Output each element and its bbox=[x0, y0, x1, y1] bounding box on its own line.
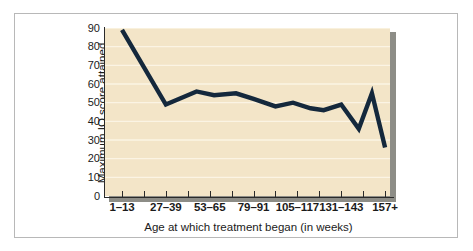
plot-region bbox=[105, 28, 392, 198]
x-axis-tick-label: 131–143 bbox=[319, 201, 363, 213]
x-axis-tick-label: 1–13 bbox=[109, 201, 134, 213]
x-axis-tick-label: 157+ bbox=[372, 201, 398, 213]
x-axis-tick bbox=[144, 191, 145, 197]
data-series-line bbox=[122, 30, 385, 148]
plot-svg bbox=[105, 28, 390, 196]
x-axis-tick bbox=[297, 191, 298, 197]
x-axis-tick-label: 79–91 bbox=[238, 201, 269, 213]
x-axis-tick bbox=[254, 191, 255, 197]
y-axis-tick-label: 90 bbox=[76, 23, 100, 34]
x-axis-tick-label: 105–117 bbox=[276, 201, 319, 213]
chart-figure: 0102030405060708090 Maximum IQ score att… bbox=[0, 0, 473, 251]
x-axis-tick-label: 27–39 bbox=[150, 201, 181, 213]
x-axis-tick bbox=[188, 191, 189, 197]
x-axis-tick bbox=[319, 191, 320, 197]
x-axis-tick bbox=[341, 191, 342, 197]
x-axis-tick bbox=[122, 191, 123, 197]
x-axis-ticks bbox=[0, 191, 473, 198]
x-axis-tick bbox=[210, 191, 211, 197]
y-axis-line bbox=[104, 27, 105, 198]
gridlines bbox=[105, 28, 390, 177]
x-axis-tick-labels: 1–1327–3953–6579–91105–117131–143157+ bbox=[0, 201, 473, 217]
x-axis-tick bbox=[363, 191, 364, 197]
x-axis-tick bbox=[275, 191, 276, 197]
x-axis-tick bbox=[385, 191, 386, 197]
plot-area bbox=[105, 28, 390, 196]
x-axis-title: Age at which treatment began (in weeks) bbox=[105, 221, 392, 233]
x-axis-tick bbox=[166, 191, 167, 197]
x-axis-tick bbox=[232, 191, 233, 197]
y-axis-title-wrap: Maximum IQ score attained bbox=[62, 55, 82, 175]
x-axis-tick-label: 53–65 bbox=[194, 201, 225, 213]
